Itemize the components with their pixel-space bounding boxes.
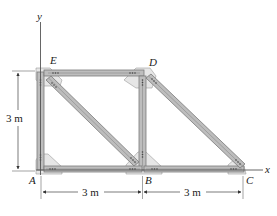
truss-members bbox=[37, 70, 245, 172]
joint-label-B: B bbox=[145, 174, 152, 186]
member-EB-stripe bbox=[49, 78, 137, 164]
height-dimension: 3 m bbox=[6, 71, 35, 171]
span-BC-label: 3 m bbox=[184, 186, 201, 198]
span-AB-label: 3 m bbox=[82, 186, 99, 198]
joint-label-E: E bbox=[49, 54, 57, 66]
joint-label-C: C bbox=[246, 174, 254, 186]
joint-label-A: A bbox=[28, 174, 36, 186]
joint-label-D: D bbox=[148, 56, 157, 68]
y-axis-label: y bbox=[36, 10, 42, 22]
height-dimension-label: 3 m bbox=[6, 112, 23, 124]
truss-diagram: y x E D A B C 3 m 3 m 3 m bbox=[0, 0, 277, 216]
span-dimensions: 3 m 3 m bbox=[41, 176, 243, 199]
member-DC-stripe bbox=[149, 76, 243, 166]
x-axis-label: x bbox=[264, 163, 270, 175]
